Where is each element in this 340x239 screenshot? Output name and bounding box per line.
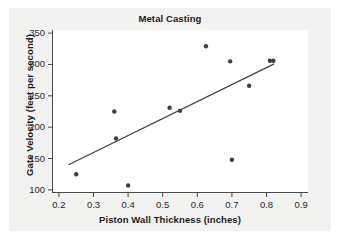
data-point [74,172,78,176]
data-point [204,44,208,48]
y-tick-label: 100 [15,184,45,195]
data-point [126,183,130,187]
data-point [112,109,116,113]
x-tick-label: 0.8 [251,199,281,210]
y-tick-label: 250 [15,90,45,101]
y-tick-label: 200 [15,121,45,132]
x-tick-label: 0.9 [286,199,316,210]
regression-line [69,64,274,165]
data-point [228,59,232,63]
data-point [271,59,275,63]
x-tick-label: 0.3 [79,199,109,210]
x-tick-label: 0.2 [44,199,74,210]
x-tick-label: 0.4 [113,199,143,210]
data-point [178,109,182,113]
data-point [247,84,251,88]
axis-ticks [48,33,301,197]
fit-line [69,64,274,165]
y-tick-label: 150 [15,153,45,164]
x-tick-label: 0.6 [182,199,212,210]
data-point [230,158,234,162]
chart-figure: Metal Casting Piston Wall Thickness (inc… [0,0,340,239]
x-tick-label: 0.5 [148,199,178,210]
y-tick-label: 300 [15,58,45,69]
x-tick-label: 0.7 [217,199,247,210]
data-point [167,106,171,110]
data-point [114,136,118,140]
y-tick-label: 350 [15,27,45,38]
data-points [74,44,276,188]
